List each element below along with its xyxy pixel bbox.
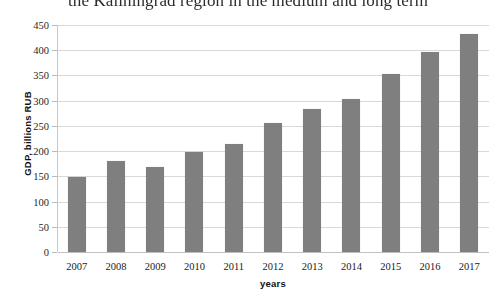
x-tick-slot: 2010 xyxy=(175,256,214,274)
y-tick-label: 50 xyxy=(13,221,49,232)
y-tick-mark xyxy=(52,176,57,177)
bar[interactable] xyxy=(382,74,400,252)
x-tick-slot: 2016 xyxy=(410,256,449,274)
y-tick-label: 100 xyxy=(13,196,49,207)
y-tick-mark xyxy=(52,252,57,253)
y-tick-mark xyxy=(52,151,57,152)
bar-series xyxy=(57,25,489,252)
gridline xyxy=(58,252,489,253)
bar-slot xyxy=(371,25,410,252)
bar-chart: GDP, billions RUB 2007200820092010201120… xyxy=(0,16,496,304)
x-tick-label: 2017 xyxy=(459,261,480,272)
x-tick-slot: 2012 xyxy=(253,256,292,274)
x-tick-label: 2012 xyxy=(262,261,283,272)
x-tick-slot: 2008 xyxy=(96,256,135,274)
bar-slot xyxy=(253,25,292,252)
x-axis: 2007200820092010201120122013201420152016… xyxy=(57,256,489,274)
bar[interactable] xyxy=(68,177,86,252)
y-tick-mark xyxy=(52,101,57,102)
x-tick-label: 2009 xyxy=(145,261,166,272)
bar[interactable] xyxy=(185,152,203,252)
bar[interactable] xyxy=(146,167,164,252)
y-tick-label: 0 xyxy=(13,247,49,258)
y-tick-mark xyxy=(52,50,57,51)
x-tick-label: 2016 xyxy=(420,261,441,272)
bar-slot xyxy=(214,25,253,252)
x-tick-slot: 2015 xyxy=(371,256,410,274)
y-tick-label: 400 xyxy=(13,45,49,56)
clipped-caption-strip: the Kaliningrad region in the medium and… xyxy=(0,0,496,16)
x-tick-slot: 2013 xyxy=(293,256,332,274)
x-tick-slot: 2011 xyxy=(214,256,253,274)
bar-slot xyxy=(410,25,449,252)
x-tick-label: 2010 xyxy=(184,261,205,272)
bar[interactable] xyxy=(107,161,125,252)
x-tick-label: 2013 xyxy=(302,261,323,272)
bar[interactable] xyxy=(460,34,478,252)
bar[interactable] xyxy=(264,123,282,252)
x-tick-slot: 2017 xyxy=(450,256,489,274)
bar[interactable] xyxy=(421,52,439,252)
y-tick-label: 350 xyxy=(13,70,49,81)
y-tick-mark xyxy=(52,227,57,228)
x-tick-slot: 2007 xyxy=(57,256,96,274)
x-tick-label: 2008 xyxy=(105,261,126,272)
y-tick-label: 150 xyxy=(13,171,49,182)
bar-slot xyxy=(450,25,489,252)
bar-slot xyxy=(136,25,175,252)
bar[interactable] xyxy=(342,99,360,252)
bar-slot xyxy=(96,25,135,252)
y-tick-mark xyxy=(52,75,57,76)
y-tick-label: 250 xyxy=(13,120,49,131)
bar-slot xyxy=(57,25,96,252)
bar-slot xyxy=(175,25,214,252)
bar-slot xyxy=(293,25,332,252)
caption-text: the Kaliningrad region in the medium and… xyxy=(0,0,496,11)
bar[interactable] xyxy=(225,144,243,252)
x-tick-label: 2014 xyxy=(341,261,362,272)
x-tick-slot: 2009 xyxy=(136,256,175,274)
y-tick-mark xyxy=(52,126,57,127)
y-tick-label: 200 xyxy=(13,146,49,157)
y-tick-label: 450 xyxy=(13,20,49,31)
y-tick-mark xyxy=(52,202,57,203)
bar[interactable] xyxy=(303,109,321,252)
x-tick-slot: 2014 xyxy=(332,256,371,274)
y-tick-label: 300 xyxy=(13,95,49,106)
x-axis-title: years xyxy=(57,278,489,289)
x-tick-label: 2015 xyxy=(380,261,401,272)
y-tick-mark xyxy=(52,25,57,26)
x-tick-label: 2007 xyxy=(66,261,87,272)
bar-slot xyxy=(332,25,371,252)
x-tick-label: 2011 xyxy=(223,261,244,272)
